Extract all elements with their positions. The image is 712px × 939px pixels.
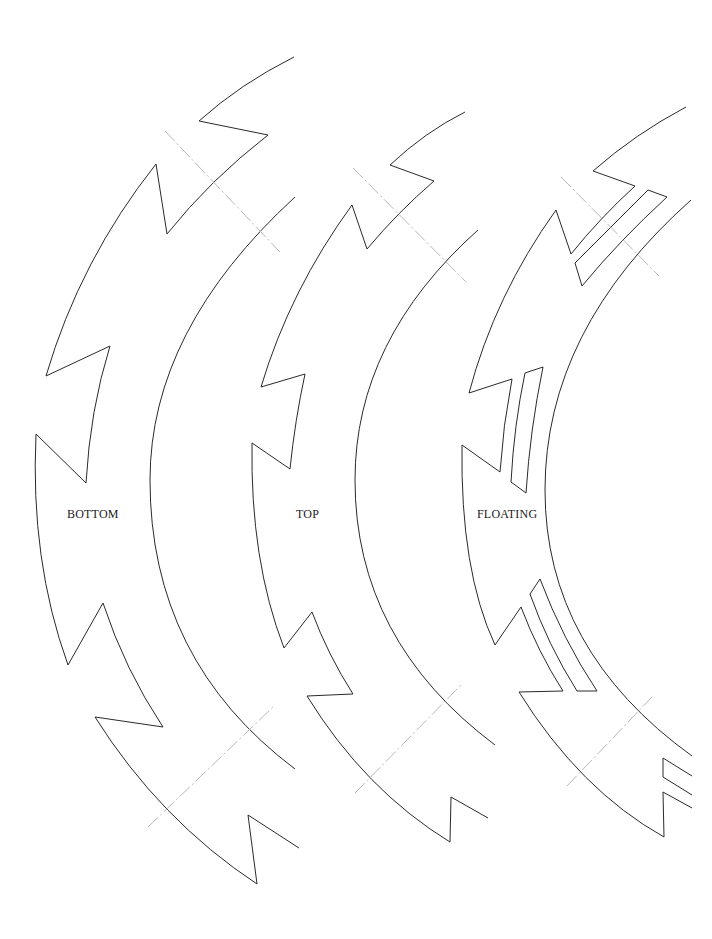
piece-top (252, 112, 495, 842)
bottom-outer-edge (35, 57, 299, 884)
bottom-guide-bottom (148, 707, 273, 827)
bottom-inner-edge (150, 197, 295, 769)
floating-inner-edge (545, 200, 692, 756)
label-bottom: BOTTOM (67, 507, 119, 522)
top-guide-top (353, 168, 466, 282)
label-floating: FLOATING (477, 507, 537, 522)
floating-guide-bottom (567, 697, 652, 786)
bottom-guide-top (165, 131, 280, 252)
label-top: TOP (296, 507, 319, 522)
piece-bottom (35, 57, 299, 884)
piece-floating (462, 107, 692, 837)
top-outer-edge (252, 112, 488, 842)
floating-guide-top (561, 177, 659, 276)
floating-slot-middle (511, 367, 543, 493)
top-guide-bottom (355, 685, 461, 793)
floating-outer-edge (462, 107, 692, 837)
top-inner-edge (355, 230, 495, 745)
template-drawing (0, 0, 712, 939)
floating-end-tabs (663, 758, 692, 795)
